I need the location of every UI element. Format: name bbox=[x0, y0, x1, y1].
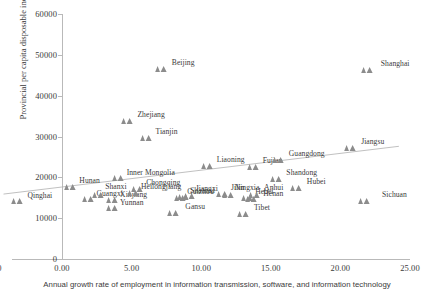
trendline bbox=[62, 14, 410, 259]
data-point-marker[interactable] bbox=[121, 111, 133, 118]
y-axis-line bbox=[62, 14, 63, 259]
data-point-label: Hunan bbox=[79, 176, 100, 185]
data-point-marker[interactable] bbox=[167, 203, 179, 210]
y-tick-mark bbox=[58, 137, 62, 138]
data-point-label: Jiangsu bbox=[361, 136, 384, 145]
plot-area: 0100002000030000400005000060000 -5.000.0… bbox=[62, 14, 410, 259]
data-point-label: Shaanxi bbox=[190, 185, 215, 194]
data-point-marker[interactable] bbox=[270, 169, 282, 176]
data-point-marker[interactable] bbox=[222, 184, 234, 191]
scatter-chart: Provincial per capita disposable income … bbox=[0, 0, 434, 301]
data-point-marker[interactable] bbox=[106, 197, 118, 204]
data-point-marker[interactable] bbox=[272, 149, 284, 156]
data-point-marker[interactable] bbox=[247, 156, 259, 163]
y-tick-mark bbox=[58, 55, 62, 56]
data-point-marker[interactable] bbox=[64, 177, 76, 184]
data-point-marker[interactable] bbox=[237, 204, 249, 211]
y-tick-mark bbox=[58, 177, 62, 178]
y-tick-label: 50000 bbox=[35, 50, 57, 60]
data-point-label: Zhejiang bbox=[137, 110, 164, 119]
y-tick-mark bbox=[58, 96, 62, 97]
data-point-label: Liaoning bbox=[217, 154, 245, 163]
data-point-marker[interactable] bbox=[140, 128, 152, 135]
data-point-marker[interactable] bbox=[11, 190, 23, 197]
y-tick-mark bbox=[58, 14, 62, 15]
data-point-marker[interactable] bbox=[106, 190, 118, 197]
data-point-label: Sichuan bbox=[382, 190, 407, 199]
data-point-label: Henan bbox=[263, 189, 283, 198]
data-point-marker[interactable] bbox=[358, 191, 370, 198]
y-tick-mark bbox=[58, 259, 62, 260]
x-axis-line bbox=[12, 259, 410, 260]
data-point-label: Tianjin bbox=[156, 127, 178, 136]
x-axis-title: Annual growth rate of employment in info… bbox=[0, 280, 434, 289]
data-point-label: Beijing bbox=[172, 58, 195, 67]
y-tick-label: 10000 bbox=[35, 213, 57, 223]
data-point-label: Shanghai bbox=[381, 58, 410, 67]
x-tick-label: -5.00 bbox=[0, 263, 2, 273]
data-point-marker[interactable] bbox=[127, 183, 139, 190]
data-point-marker[interactable] bbox=[155, 59, 167, 66]
y-tick-label: 60000 bbox=[35, 9, 57, 19]
data-point-label: Guangdong bbox=[289, 148, 325, 157]
y-tick-mark bbox=[58, 218, 62, 219]
data-point-marker[interactable] bbox=[344, 137, 356, 144]
data-point-marker[interactable] bbox=[92, 184, 104, 191]
y-tick-label: 30000 bbox=[35, 132, 57, 142]
x-tick-label: 15.00 bbox=[261, 263, 281, 273]
data-point-marker[interactable] bbox=[112, 168, 124, 175]
data-point-label: Yunnan bbox=[120, 197, 144, 206]
x-tick-label: 25.00 bbox=[400, 263, 420, 273]
x-tick-label: 0.00 bbox=[54, 263, 69, 273]
data-point-marker[interactable] bbox=[290, 177, 302, 184]
data-point-label: Hubei bbox=[307, 176, 326, 185]
y-tick-label: 20000 bbox=[35, 172, 57, 182]
data-point-label: Gansu bbox=[185, 202, 205, 211]
data-point-marker[interactable] bbox=[201, 155, 213, 162]
data-point-label: Inner Mongolia bbox=[127, 168, 175, 177]
data-point-marker[interactable] bbox=[177, 186, 189, 193]
y-tick-label: 40000 bbox=[35, 91, 57, 101]
data-point-label: Tibet bbox=[254, 203, 270, 212]
x-tick-label: 5.00 bbox=[124, 263, 139, 273]
x-tick-label: 10.00 bbox=[191, 263, 211, 273]
data-point-marker[interactable] bbox=[361, 59, 373, 66]
data-point-label: Qinghai bbox=[27, 190, 52, 199]
x-tick-label: 20.00 bbox=[331, 263, 351, 273]
data-point-marker[interactable] bbox=[245, 189, 257, 196]
y-axis-title: Provincial per capita disposable income … bbox=[16, 0, 30, 146]
